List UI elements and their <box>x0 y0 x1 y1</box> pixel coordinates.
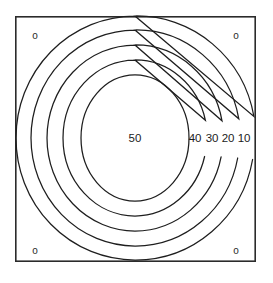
center-label-50: 50 <box>129 132 142 144</box>
corner-mark-top-left: o <box>32 30 38 41</box>
ring-label-10: 10 <box>238 132 250 144</box>
figure-canvas: 10 20 30 40 50 o o o o <box>0 0 273 283</box>
ring-label-20: 20 <box>222 132 234 144</box>
ring-label-30: 30 <box>206 132 218 144</box>
corner-mark-top-right: o <box>233 30 239 41</box>
ring-label-40: 40 <box>189 132 201 144</box>
corner-mark-bottom-left: o <box>32 245 38 256</box>
corner-mark-bottom-right: o <box>233 245 239 256</box>
contour-diagram: 10 20 30 40 50 o o o o <box>0 0 273 283</box>
